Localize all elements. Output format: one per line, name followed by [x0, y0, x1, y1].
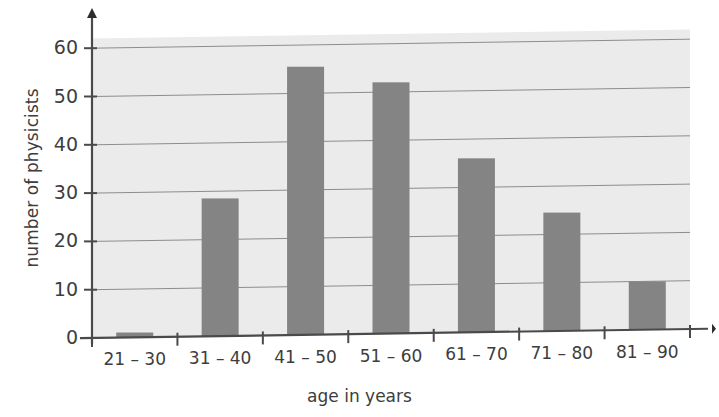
bar: [373, 82, 410, 333]
bar: [543, 213, 580, 331]
x-tick-label: 31 – 40: [175, 348, 265, 368]
x-tick-label: 21 – 30: [90, 349, 180, 369]
x-tick-label: 61 – 70: [431, 344, 521, 364]
bar: [287, 67, 324, 335]
x-axis-arrow-icon: [712, 324, 716, 334]
bar: [458, 158, 495, 332]
x-tick-label: 41 – 50: [261, 347, 351, 367]
y-axis-arrow-icon: [87, 8, 97, 18]
x-tick-label: 51 – 60: [346, 346, 436, 366]
y-tick-label: 10: [30, 280, 78, 299]
bar: [629, 281, 666, 329]
histogram-chart: number of physicists 0102030405060 21 – …: [0, 0, 719, 417]
bar: [202, 198, 239, 336]
y-tick-label: 40: [30, 135, 78, 154]
x-tick-label: 71 – 80: [517, 343, 607, 363]
x-axis-title: age in years: [0, 386, 719, 406]
y-tick-label: 0: [30, 328, 78, 347]
y-tick-label: 30: [30, 183, 78, 202]
y-tick-label: 60: [30, 38, 78, 57]
y-tick-label: 50: [30, 87, 78, 106]
y-tick-label: 20: [30, 231, 78, 250]
x-tick-label: 81 – 90: [602, 342, 692, 362]
